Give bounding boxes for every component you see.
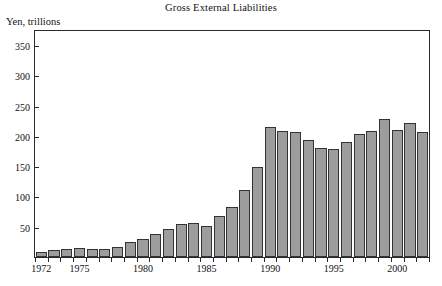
x-tick-label: 1975: [69, 263, 89, 274]
x-tick-mark: [315, 258, 316, 262]
bar: [214, 216, 225, 257]
x-tick-mark: [99, 258, 100, 262]
x-tick-mark: [188, 258, 189, 262]
x-tick-mark: [276, 258, 277, 262]
y-tick-label: 300: [0, 71, 30, 82]
y-tick-label: 250: [0, 101, 30, 112]
bar: [366, 131, 377, 258]
chart-figure: Gross External Liabilities Yen, trillion…: [0, 0, 442, 286]
bar: [379, 119, 390, 257]
bar: [99, 249, 110, 257]
bar: [61, 249, 72, 257]
chart-title: Gross External Liabilities: [0, 2, 442, 13]
x-tick-mark: [264, 258, 265, 262]
bar: [303, 140, 314, 257]
bar: [48, 250, 59, 257]
x-tick-mark: [149, 258, 150, 262]
x-tick-mark: [213, 258, 214, 262]
x-tick-label: 1995: [324, 263, 344, 274]
x-tick-mark: [48, 258, 49, 262]
bar: [290, 132, 301, 257]
bar: [417, 132, 428, 257]
x-tick-mark: [137, 258, 138, 262]
y-axis-label: Yen, trillions: [6, 16, 60, 27]
bar: [125, 242, 136, 257]
bar: [239, 190, 250, 257]
bar: [176, 224, 187, 257]
x-tick-mark: [86, 258, 87, 262]
x-tick-label: 2000: [387, 263, 407, 274]
bar: [392, 130, 403, 257]
x-tick-mark: [429, 258, 430, 262]
bar: [265, 127, 276, 257]
y-tick-label: 350: [0, 41, 30, 52]
x-tick-mark: [327, 258, 328, 262]
x-tick-mark: [175, 258, 176, 262]
bar: [188, 223, 199, 258]
x-tick-mark: [391, 258, 392, 262]
bar: [328, 149, 339, 257]
bar: [354, 134, 365, 257]
x-tick-mark: [162, 258, 163, 262]
x-tick-mark: [60, 258, 61, 262]
x-tick-mark: [378, 258, 379, 262]
x-tick-mark: [111, 258, 112, 262]
bar: [277, 131, 288, 258]
plot-area: [35, 31, 429, 257]
bar: [226, 207, 237, 257]
bar: [74, 248, 85, 257]
x-tick-mark: [404, 258, 405, 262]
x-tick-mark: [353, 258, 354, 262]
bar: [315, 148, 326, 257]
x-tick-mark: [302, 258, 303, 262]
bar: [137, 239, 148, 257]
x-tick-label: 1985: [197, 263, 217, 274]
y-tick-label: 200: [0, 131, 30, 142]
x-tick-mark: [226, 258, 227, 262]
x-tick-label: 1980: [133, 263, 153, 274]
y-tick-label: 150: [0, 162, 30, 173]
bar: [201, 226, 212, 257]
bar: [341, 142, 352, 257]
x-tick-label: 1990: [260, 263, 280, 274]
bar: [404, 123, 415, 257]
bar-series: [35, 31, 429, 257]
bar: [163, 229, 174, 257]
x-tick-mark: [73, 258, 74, 262]
x-tick-mark: [289, 258, 290, 262]
bar: [252, 167, 263, 257]
x-tick-mark: [200, 258, 201, 262]
x-tick-mark: [340, 258, 341, 262]
x-tick-mark: [35, 258, 36, 262]
x-tick-mark: [238, 258, 239, 262]
bar: [112, 247, 123, 257]
x-tick-mark: [124, 258, 125, 262]
x-tick-mark: [416, 258, 417, 262]
y-tick-label: 50: [0, 222, 30, 233]
x-tick-label: 1972: [31, 263, 51, 274]
bar: [87, 249, 98, 257]
x-tick-mark: [365, 258, 366, 262]
y-tick-label: 100: [0, 192, 30, 203]
bar: [36, 252, 47, 257]
bar: [150, 234, 161, 257]
x-tick-mark: [251, 258, 252, 262]
